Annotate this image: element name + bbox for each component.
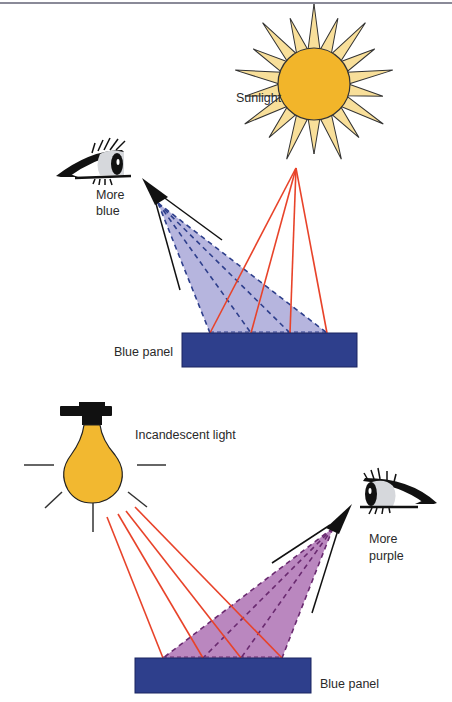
eye-icon — [360, 468, 437, 514]
top-scene: Sunlight More blue Blue — [56, 4, 394, 367]
bottom-scene: Incandescent light More purple — [24, 402, 437, 693]
more-blue-label-line2: blue — [96, 204, 120, 218]
sun-icon — [234, 4, 394, 161]
eye-icon — [56, 138, 131, 185]
light-reflection-diagram: Sunlight More blue Blue — [0, 0, 452, 702]
blue-panel-bottom-label: Blue panel — [320, 677, 379, 691]
reflected-light-cone-purple — [163, 528, 333, 658]
more-blue-label-line1: More — [96, 188, 125, 202]
more-purple-label-line1: More — [369, 532, 398, 546]
light-bulb-icon — [60, 402, 122, 503]
sunlight-label: Sunlight — [236, 91, 282, 105]
blue-panel-top — [182, 333, 357, 367]
blue-panel-bottom — [135, 658, 311, 693]
reflected-light-cone-blue — [158, 203, 327, 333]
more-purple-label-line2: purple — [369, 549, 404, 563]
blue-panel-top-label: Blue panel — [114, 345, 173, 359]
incandescent-light-label: Incandescent light — [135, 428, 236, 442]
